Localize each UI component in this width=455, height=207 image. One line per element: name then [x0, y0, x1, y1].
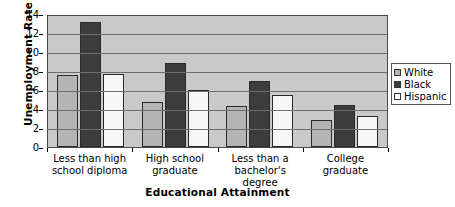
y-axis-tick-labels: 02468101214: [18, 15, 43, 148]
y-axis-tick-label: 12: [26, 29, 39, 39]
y-axis-tick-mark: [39, 53, 43, 54]
y-axis-tick-label: 10: [26, 48, 39, 58]
bar-chart: Unemployment Rate 02468101214 Less than …: [0, 0, 455, 207]
x-axis-label-high-school-graduate: High school graduate: [132, 153, 217, 189]
gridline: [48, 53, 387, 54]
y-axis-tick-mark: [39, 148, 43, 149]
legend-swatch-white-icon: [394, 69, 401, 76]
bar-hispanic-less-than-a-bachelor-s-degree[interactable]: [272, 95, 293, 147]
y-axis-tick-mark: [39, 129, 43, 130]
x-axis-title: Educational Attainment: [47, 186, 388, 198]
plot-area: [47, 15, 388, 148]
legend-item-hispanic[interactable]: Hispanic: [394, 90, 447, 102]
bar-hispanic-college-graduate[interactable]: [357, 116, 378, 147]
y-axis-tick-mark: [39, 91, 43, 92]
bar-black-college-graduate[interactable]: [334, 105, 355, 147]
bar-white-high-school-graduate[interactable]: [142, 102, 163, 147]
bar-group-less-than-high-school-diploma: [48, 16, 133, 147]
bar-group-less-than-a-bachelor-s-degree: [218, 16, 303, 147]
legend-swatch-black-icon: [394, 81, 401, 88]
gridline: [48, 15, 387, 16]
x-axis-tick-mark: [218, 148, 219, 152]
y-axis-tick-mark: [39, 110, 43, 111]
gridline: [48, 91, 387, 92]
x-axis-label-less-than-high-school-diploma: Less than high school diploma: [47, 153, 132, 189]
legend-label: Black: [404, 79, 431, 90]
x-axis-tick-mark: [388, 148, 389, 152]
y-axis-tick-mark: [39, 72, 43, 73]
x-axis-label-less-than-a-bachelor-s-degree: Less than a bachelor's degree: [218, 153, 303, 189]
legend-label: Hispanic: [404, 91, 447, 102]
bar-group-high-school-graduate: [133, 16, 218, 147]
gridline: [48, 34, 387, 35]
x-axis-tick-mark: [132, 148, 133, 152]
legend-swatch-hispanic-icon: [394, 93, 401, 100]
y-axis-tick-label: 14: [26, 10, 39, 20]
bar-black-high-school-graduate[interactable]: [165, 63, 186, 147]
x-axis-category-labels: Less than high school diplomaHigh school…: [47, 153, 388, 189]
bar-groups: [48, 16, 387, 147]
legend-label: White: [404, 67, 433, 78]
x-axis-tick-mark: [47, 148, 48, 152]
bar-white-less-than-a-bachelor-s-degree[interactable]: [226, 106, 247, 147]
y-axis-tick-mark: [39, 15, 43, 16]
legend-item-white[interactable]: White: [394, 66, 447, 78]
bar-group-college-graduate: [302, 16, 387, 147]
gridline: [48, 72, 387, 73]
bar-white-less-than-high-school-diploma[interactable]: [57, 75, 78, 147]
bar-white-college-graduate[interactable]: [311, 120, 332, 147]
bar-hispanic-high-school-graduate[interactable]: [188, 90, 209, 147]
legend: WhiteBlackHispanic: [391, 63, 451, 105]
legend-item-black[interactable]: Black: [394, 78, 447, 90]
y-axis-tick-mark: [39, 34, 43, 35]
gridline: [48, 129, 387, 130]
x-axis-tick-mark: [303, 148, 304, 152]
x-axis-label-college-graduate: College graduate: [303, 153, 388, 189]
gridline: [48, 110, 387, 111]
